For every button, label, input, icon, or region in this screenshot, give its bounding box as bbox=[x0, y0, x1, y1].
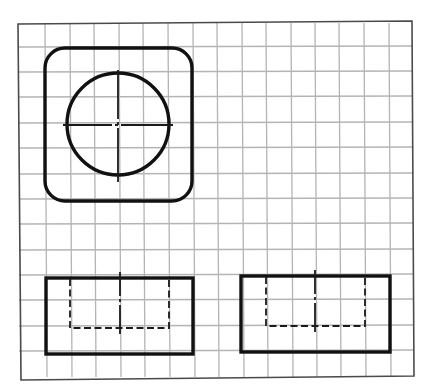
center-mark bbox=[63, 70, 173, 182]
grid-line-vertical bbox=[291, 23, 293, 377]
grid-line-horizontal bbox=[19, 71, 413, 72]
grid-line-horizontal bbox=[19, 122, 413, 123]
grid-line-horizontal bbox=[19, 198, 413, 199]
grid-line-horizontal bbox=[19, 299, 413, 300]
grid-line-vertical bbox=[217, 23, 219, 377]
front-view bbox=[46, 272, 193, 354]
grid-drawing bbox=[0, 0, 425, 392]
grid-line-horizontal bbox=[19, 96, 413, 97]
grid-line-horizontal bbox=[19, 249, 413, 250]
side-view bbox=[241, 270, 390, 352]
grid-line-vertical bbox=[339, 23, 341, 377]
grid-line-horizontal bbox=[19, 223, 413, 224]
grid-line-horizontal bbox=[19, 147, 413, 148]
grid-line-horizontal bbox=[19, 173, 413, 174]
top-view bbox=[45, 48, 192, 201]
